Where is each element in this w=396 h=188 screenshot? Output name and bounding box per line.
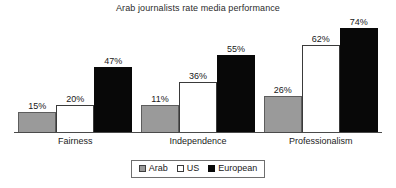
bar-wrap: 36% (179, 20, 217, 133)
category-label-fairness: Fairness (14, 136, 137, 147)
black-swatch-icon (208, 165, 215, 172)
bar-wrap: 47% (94, 20, 132, 133)
bar-professionalism-arab (264, 96, 302, 133)
bar-wrap: 55% (217, 20, 255, 133)
white-swatch-icon (177, 165, 184, 172)
legend-entry-european: European (208, 163, 257, 174)
bar-wrap: 74% (340, 20, 378, 133)
bar-value-label: 74% (332, 17, 386, 27)
legend-label-us: US (187, 163, 200, 174)
legend-entry-us: US (177, 163, 200, 174)
chart-title: Arab journalists rate media performance (0, 3, 396, 14)
bar-fairness-european (94, 67, 132, 133)
bar-wrap: 20% (56, 20, 94, 133)
bar-professionalism-us (302, 45, 340, 133)
category-axis: Fairness Independence Professionalism (14, 136, 382, 147)
plot-area: 15% 20% 47% 11% 36% (14, 20, 382, 133)
bar-groups: 15% 20% 47% 11% 36% (14, 20, 382, 133)
bar-professionalism-european (340, 28, 378, 133)
bar-group-independence: 11% 36% 55% (137, 20, 260, 133)
legend-label-european: European (218, 163, 257, 174)
bar-group-fairness: 15% 20% 47% (14, 20, 137, 133)
bar-chart-figure: Arab journalists rate media performance … (0, 0, 396, 188)
gray-swatch-icon (139, 165, 146, 172)
chart-legend: Arab US European (0, 160, 396, 178)
category-label-professionalism: Professionalism (259, 136, 382, 147)
bar-fairness-us (56, 105, 94, 133)
bar-independence-european (217, 55, 255, 133)
bar-independence-arab (141, 105, 179, 133)
legend-entry-arab: Arab (139, 163, 168, 174)
bar-value-label: 55% (209, 44, 263, 54)
legend-box: Arab US European (131, 160, 266, 178)
bar-wrap: 62% (302, 20, 340, 133)
legend-label-arab: Arab (149, 163, 168, 174)
bar-group-professionalism: 26% 62% 74% (259, 20, 382, 133)
bar-value-label: 47% (86, 56, 140, 66)
x-axis-line (14, 132, 382, 133)
bar-wrap: 15% (18, 20, 56, 133)
bar-fairness-arab (18, 112, 56, 133)
bar-independence-us (179, 82, 217, 133)
category-label-independence: Independence (137, 136, 260, 147)
